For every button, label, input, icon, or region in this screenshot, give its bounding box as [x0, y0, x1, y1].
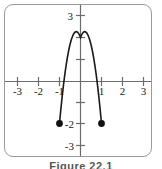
x-tick-label-pos2: 2: [120, 85, 126, 97]
x-tick-label-neg1: -1: [55, 85, 64, 97]
y-tick-label-neg3: -3: [65, 140, 75, 152]
x-tick-label-neg2: -2: [34, 85, 43, 97]
endpoint-dot-right: [98, 120, 105, 127]
x-tick-label-pos1: 1: [99, 85, 105, 97]
y-tick-label-neg2: -2: [65, 118, 74, 130]
graph-canvas: -3 -2 -1 1 2 3 3 -2 -3: [0, 0, 162, 169]
figure-caption: Figure 22.1: [0, 160, 162, 169]
x-tick-label-neg3: -3: [13, 85, 23, 97]
figure-container: -3 -2 -1 1 2 3 3 -2 -3 Figure 22.1: [0, 0, 162, 169]
endpoint-dot-left: [56, 120, 63, 127]
x-tick-label-pos3: 3: [141, 85, 147, 97]
y-tick-label-pos3: 3: [68, 10, 74, 22]
